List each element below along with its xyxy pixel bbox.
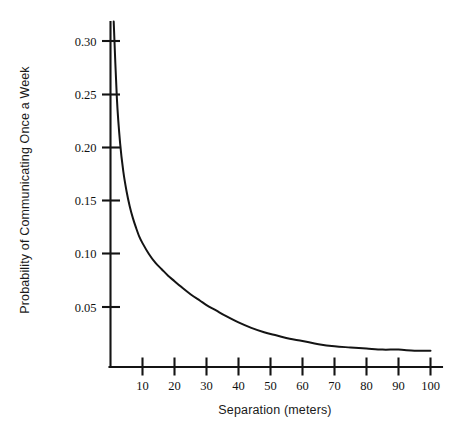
y-tick-label: 0.10	[75, 247, 97, 261]
y-tick-label: 0.15	[75, 194, 97, 208]
y-tick-label: 0.25	[75, 88, 97, 102]
y-tick-label: 0.30	[75, 35, 97, 49]
y-tick-labels: 0.050.100.150.200.250.30	[75, 35, 97, 315]
x-tick-label: 100	[421, 379, 440, 393]
x-axis-title: Separation (meters)	[110, 400, 440, 418]
ticks-group	[102, 41, 431, 376]
x-tick-label: 40	[232, 379, 245, 393]
x-tick-label: 80	[360, 379, 373, 393]
data-series-curve	[114, 21, 431, 350]
x-tick-label: 50	[264, 379, 277, 393]
y-tick-label: 0.05	[75, 301, 97, 315]
x-tick-label: 10	[136, 379, 149, 393]
x-tick-labels: 102030405060708090100	[136, 379, 440, 393]
x-tick-label: 90	[392, 379, 405, 393]
x-tick-label: 60	[296, 379, 309, 393]
y-tick-label: 0.20	[75, 141, 97, 155]
x-tick-label: 20	[168, 379, 181, 393]
x-axis-title-text: Separation (meters)	[218, 403, 331, 417]
x-tick-label: 30	[200, 379, 213, 393]
x-tick-label: 70	[328, 379, 341, 393]
data-curve-path	[114, 21, 431, 350]
chart-figure: Probability of Communicating Once a Week…	[0, 0, 457, 444]
axes-group	[110, 22, 443, 367]
chart-plot-area: 0.050.100.150.200.250.30 102030405060708…	[0, 0, 457, 444]
